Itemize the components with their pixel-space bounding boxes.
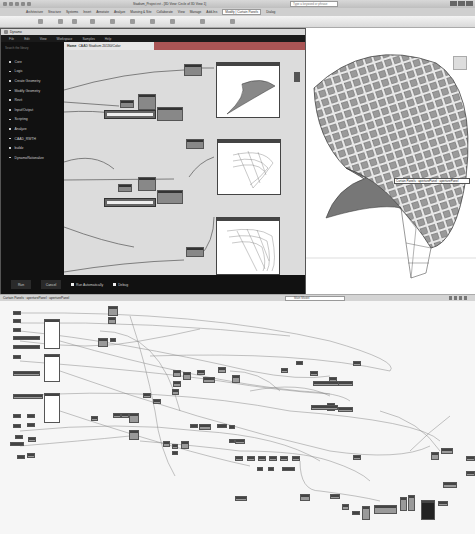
- graph-node[interactable]: [352, 511, 360, 515]
- menu-edit[interactable]: Edit: [24, 37, 30, 41]
- graph-node[interactable]: [313, 381, 340, 386]
- paste-icon[interactable]: [58, 19, 63, 24]
- run-button[interactable]: Run: [11, 280, 31, 289]
- run-automatically-checkbox[interactable]: Run Automatically: [71, 283, 103, 287]
- cut-icon[interactable]: [72, 19, 77, 24]
- node[interactable]: [138, 94, 156, 110]
- graph-node[interactable]: [269, 456, 277, 461]
- tab-manage[interactable]: Manage: [190, 10, 202, 14]
- graph-node[interactable]: [218, 367, 226, 373]
- help-search-input[interactable]: Type a keyword or phrase: [290, 1, 338, 7]
- menu-help[interactable]: Help: [105, 37, 112, 41]
- graph-node[interactable]: [408, 495, 415, 511]
- number-input-node[interactable]: [104, 198, 156, 207]
- revit-3d-view[interactable]: Curtain Panels : aperturePanel : apertur…: [305, 28, 475, 294]
- graph-node[interactable]: [129, 430, 139, 440]
- graph-node[interactable]: [330, 494, 340, 499]
- graph-node[interactable]: [400, 497, 407, 511]
- library-category[interactable]: Analyze: [1, 124, 64, 134]
- node[interactable]: [120, 100, 134, 108]
- graph-node[interactable]: [10, 442, 24, 446]
- graph-node[interactable]: [27, 414, 35, 418]
- graph-node[interactable]: [13, 319, 21, 323]
- graph-node[interactable]: [342, 504, 349, 510]
- zoom-controls[interactable]: [294, 72, 300, 82]
- graph-node[interactable]: [13, 394, 43, 399]
- tab-add-ins[interactable]: Add-Ins: [206, 10, 217, 14]
- graph-node[interactable]: [181, 441, 189, 449]
- redo-icon[interactable]: [27, 2, 31, 6]
- graph-node[interactable]: [108, 306, 118, 316]
- maximize-button[interactable]: [458, 1, 465, 6]
- node[interactable]: [186, 247, 204, 257]
- graph-node[interactable]: [338, 381, 353, 386]
- library-category[interactable]: Scripting: [1, 115, 64, 125]
- graph-node[interactable]: [353, 455, 361, 460]
- graph-node[interactable]: [27, 423, 35, 427]
- node[interactable]: [184, 64, 202, 76]
- graph-node[interactable]: [466, 471, 475, 476]
- graph-node[interactable]: [98, 338, 108, 347]
- tab-dialog[interactable]: Dialog: [266, 10, 275, 14]
- node[interactable]: [157, 107, 183, 121]
- watch3d-node[interactable]: [216, 217, 280, 275]
- graph-preview-node[interactable]: [421, 500, 435, 520]
- graph-watch-node[interactable]: [44, 319, 60, 349]
- graph-node[interactable]: [311, 405, 338, 410]
- minimize-button[interactable]: [450, 1, 457, 6]
- graph-node[interactable]: [268, 467, 274, 471]
- tab-annotate[interactable]: Annotate: [96, 10, 109, 14]
- library-category[interactable]: Core: [1, 57, 64, 67]
- select-links-icon[interactable]: [454, 296, 457, 300]
- close-button[interactable]: [466, 1, 473, 6]
- graph-node[interactable]: [108, 317, 116, 324]
- graph-node[interactable]: [143, 393, 151, 398]
- filter-icon[interactable]: [449, 296, 452, 300]
- graph-node[interactable]: [13, 328, 21, 332]
- graph-node[interactable]: [172, 389, 179, 395]
- library-category[interactable]: Revit: [1, 95, 64, 105]
- graph-node[interactable]: [247, 456, 255, 461]
- measure-icon[interactable]: [200, 19, 205, 24]
- tab-modify-curtain-panels[interactable]: Modify | Curtain Panels: [222, 9, 261, 15]
- cancel-button[interactable]: Cancel: [41, 280, 61, 289]
- graph-node[interactable]: [13, 424, 21, 428]
- undo-icon[interactable]: [21, 2, 25, 6]
- select-underlay-icon[interactable]: [459, 296, 462, 300]
- graph-node[interactable]: [197, 370, 205, 375]
- graph-node[interactable]: [13, 371, 40, 376]
- graph-node[interactable]: [28, 437, 36, 442]
- node[interactable]: [186, 139, 204, 149]
- view-cube[interactable]: [453, 56, 467, 70]
- revit-app-icon[interactable]: [3, 2, 7, 6]
- menu-workspace[interactable]: Workspace: [57, 37, 73, 41]
- graph-node[interactable]: [281, 368, 288, 373]
- graph-node[interactable]: [190, 424, 198, 428]
- tab-analyze[interactable]: Analyze: [114, 10, 125, 14]
- graph-node[interactable]: [203, 377, 215, 383]
- tab-systems[interactable]: Systems: [66, 10, 78, 14]
- graph-node[interactable]: [217, 424, 227, 428]
- graph-node[interactable]: [229, 425, 235, 429]
- modify-tool-icon[interactable]: [38, 19, 43, 24]
- menu-file[interactable]: File: [9, 37, 14, 41]
- graph-node[interactable]: [13, 414, 21, 418]
- graph-node[interactable]: [310, 371, 318, 376]
- graph-node[interactable]: [257, 467, 263, 471]
- tab-architecture[interactable]: Architecture: [26, 10, 43, 14]
- library-category[interactable]: Input/Output: [1, 105, 64, 115]
- graph-node[interactable]: [280, 456, 288, 461]
- graph-watch-node[interactable]: [44, 354, 60, 382]
- library-category[interactable]: buildz: [1, 143, 64, 153]
- graph-node[interactable]: [353, 361, 361, 366]
- open-icon[interactable]: [9, 2, 13, 6]
- library-category[interactable]: Modify Geometry: [1, 86, 64, 96]
- graph-node[interactable]: [17, 455, 25, 459]
- save-icon[interactable]: [15, 2, 19, 6]
- menu-view[interactable]: View: [40, 37, 47, 41]
- library-category[interactable]: Create Geometry: [1, 76, 64, 86]
- graph-node[interactable]: [163, 441, 170, 447]
- graph-node[interactable]: [172, 451, 178, 455]
- graph-node[interactable]: [466, 456, 475, 461]
- menu-samples[interactable]: Samples: [82, 37, 94, 41]
